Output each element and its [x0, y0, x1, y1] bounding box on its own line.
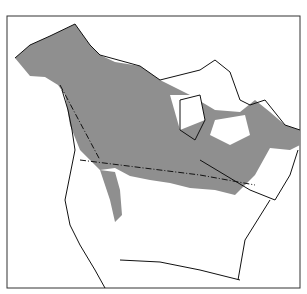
range-map	[0, 0, 307, 294]
